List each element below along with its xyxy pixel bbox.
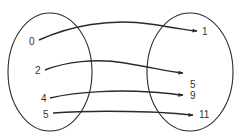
- codomain-elements: 15911: [190, 26, 210, 120]
- mapping-arrow-4-to-9: [50, 91, 183, 98]
- mapping-arrow-2-to-5: [45, 61, 183, 73]
- mapping-arrows: [39, 22, 197, 115]
- domain-set-ellipse: [8, 13, 92, 131]
- domain-element-label: 4: [41, 93, 47, 104]
- mapping-arrow-5-to-11: [53, 111, 193, 115]
- domain-element-label: 5: [43, 109, 49, 120]
- codomain-element-label: 11: [199, 109, 210, 120]
- codomain-element-label: 9: [190, 90, 196, 101]
- domain-elements: 0245: [29, 36, 49, 120]
- codomain-element-label: 5: [190, 79, 196, 90]
- domain-element-label: 2: [35, 65, 41, 76]
- set-mapping-diagram: 0245 15911: [0, 0, 240, 138]
- codomain-element-label: 1: [202, 26, 208, 37]
- domain-element-label: 0: [29, 36, 35, 47]
- mapping-arrow-0-to-1: [39, 22, 197, 40]
